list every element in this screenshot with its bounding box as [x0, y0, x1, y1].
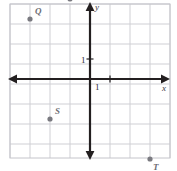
coordinate-plane-figure: QRST 1 1 x y [0, 0, 177, 171]
data-point-r[interactable] [67, 0, 72, 2]
data-point-s[interactable] [47, 116, 52, 121]
data-point-t[interactable] [147, 156, 152, 161]
plotted-points [27, 0, 152, 162]
data-point-q[interactable] [27, 16, 32, 21]
data-points-layer [0, 0, 177, 171]
